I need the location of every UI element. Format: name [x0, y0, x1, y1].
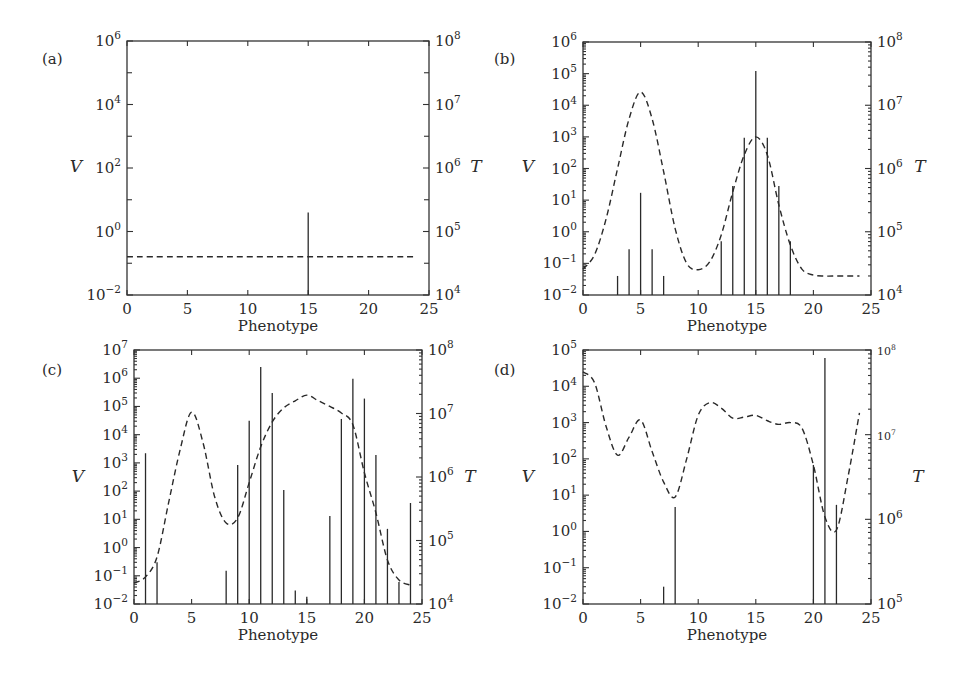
tick-label: 108: [877, 30, 903, 51]
tick-label: 100: [551, 220, 577, 241]
tick-label: 106: [877, 157, 903, 178]
tick-label: 101: [551, 483, 577, 504]
y-axis-label-T: T: [914, 156, 927, 176]
x-tick-label: 10: [689, 300, 708, 318]
x-axis-label: Phenotype: [687, 317, 767, 335]
x-tick-label: 5: [636, 609, 646, 627]
y-axis-label-T: T: [470, 156, 483, 176]
tick-label: 107: [102, 338, 128, 359]
y-axis-label-V: V: [522, 466, 536, 486]
tick-label: 106: [95, 29, 121, 50]
x-tick-label: 10: [240, 609, 259, 627]
tick-label: 106: [435, 156, 461, 177]
tick-label: 104: [435, 283, 461, 304]
tick-label: 104: [95, 93, 121, 114]
x-axis-label: Phenotype: [687, 626, 767, 644]
tick-label: 104: [551, 94, 577, 115]
tick-label: 105: [102, 395, 128, 416]
x-tick-label: 5: [636, 300, 646, 318]
x-tick-label: 15: [297, 609, 316, 627]
plot-frame: [583, 350, 871, 604]
tick-label: 108: [435, 29, 461, 50]
tick-label: 106: [102, 366, 128, 387]
y-axis-label-T: T: [464, 466, 477, 486]
tick-label: 105: [551, 338, 577, 359]
tick-label: 106: [551, 30, 577, 51]
tick-label: 107: [428, 402, 454, 423]
x-tick-label: 20: [359, 300, 378, 318]
y-axis-label-V: V: [70, 156, 84, 176]
tick-label: 100: [95, 220, 121, 241]
tick-label: 10−2: [542, 283, 577, 304]
x-tick-label: 15: [746, 609, 765, 627]
tick-label: 105: [877, 592, 903, 613]
panel-d: (d)0510152025Phenotype10−210−11001011021…: [494, 338, 925, 644]
panel-label: (b): [494, 50, 515, 68]
y-axis-label-T: T: [912, 466, 925, 486]
tick-label: 107: [877, 94, 903, 115]
tick-label: 105: [551, 62, 577, 83]
tick-label: 104: [428, 592, 454, 613]
panel-label: (c): [42, 361, 62, 379]
tick-label: 10−1: [93, 564, 128, 585]
tick-label: 104: [102, 423, 128, 444]
tick-label: 102: [551, 157, 577, 178]
tick-label: 10−1: [542, 252, 577, 273]
x-tick-label: 20: [804, 300, 823, 318]
tick-label: 101: [551, 188, 577, 209]
x-tick-label: 5: [187, 609, 197, 627]
tick-label: 103: [102, 451, 128, 472]
tick-label: 108: [428, 338, 454, 359]
tick-label: 103: [551, 411, 577, 432]
x-tick-label: 15: [746, 300, 765, 318]
plot-frame: [583, 42, 871, 295]
tick-label: 107: [435, 93, 461, 114]
tick-label: 102: [551, 447, 577, 468]
tick-label: 104: [877, 283, 903, 304]
x-tick-label: 0: [122, 300, 132, 318]
x-tick-label: 10: [689, 609, 708, 627]
tick-label: 105: [435, 220, 461, 241]
tick-label: 107: [877, 428, 896, 443]
panel-a: (a)0510152025Phenotype10−210010210410610…: [42, 29, 483, 335]
panel-c: (c)0510152025Phenotype10−210−11001011021…: [42, 338, 477, 644]
tick-label: 103: [551, 125, 577, 146]
tick-label: 100: [102, 536, 128, 557]
panel-label: (d): [494, 361, 515, 379]
tick-label: 102: [102, 479, 128, 500]
tick-label: 106: [428, 465, 454, 486]
tick-label: 10−2: [542, 592, 577, 613]
y-axis-label-V: V: [522, 156, 536, 176]
panel-b: (b)0510152025Phenotype10−210−11001011021…: [494, 30, 927, 335]
x-tick-label: 5: [183, 300, 193, 318]
tick-label: 10−2: [86, 283, 121, 304]
tick-label: 101: [102, 508, 128, 529]
T-curve-dashed: [583, 372, 859, 532]
x-tick-label: 0: [578, 609, 588, 627]
y-axis-label-V: V: [72, 466, 86, 486]
tick-label: 105: [877, 220, 903, 241]
x-tick-label: 20: [804, 609, 823, 627]
tick-label: 105: [428, 529, 454, 550]
x-axis-label: Phenotype: [238, 626, 318, 644]
x-tick-label: 0: [129, 609, 139, 627]
figure: (a)0510152025Phenotype10−210010210410610…: [0, 0, 966, 677]
tick-label: 104: [551, 375, 577, 396]
x-tick-label: 15: [299, 300, 318, 318]
tick-label: 108: [877, 343, 896, 358]
tick-label: 106: [877, 508, 903, 529]
plot-frame: [134, 350, 422, 604]
panel-label: (a): [42, 50, 63, 68]
tick-label: 10−2: [93, 592, 128, 613]
tick-label: 102: [95, 156, 121, 177]
tick-label: 10−1: [542, 556, 577, 577]
chart-canvas: (a)0510152025Phenotype10−210010210410610…: [0, 0, 966, 677]
x-axis-label: Phenotype: [238, 317, 318, 335]
x-tick-label: 20: [355, 609, 374, 627]
x-tick-label: 0: [578, 300, 588, 318]
tick-label: 100: [551, 520, 577, 541]
x-tick-label: 10: [238, 300, 257, 318]
